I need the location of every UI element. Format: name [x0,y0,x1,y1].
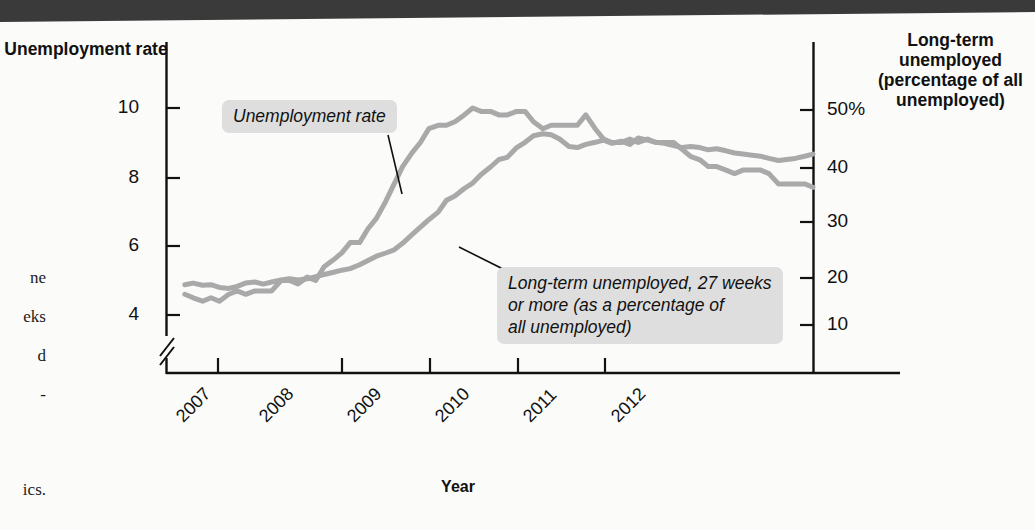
figure: Unemployment rate Long-term unemployed (… [0,22,1035,530]
callout-line-3: all unemployed) [508,316,772,338]
series-line-long-term-unemployed [185,134,813,289]
callout-unemployment-rate: Unemployment rate [222,100,397,133]
callout-line-1: Long-term unemployed, 27 weeks [508,272,772,294]
axis-break-mark [160,338,174,356]
callout-line-2: or more (as a percentage of [508,294,772,316]
callout-long-term-unemployed: Long-term unemployed, 27 weeks or more (… [497,267,783,344]
page-top-bar [0,0,1035,22]
